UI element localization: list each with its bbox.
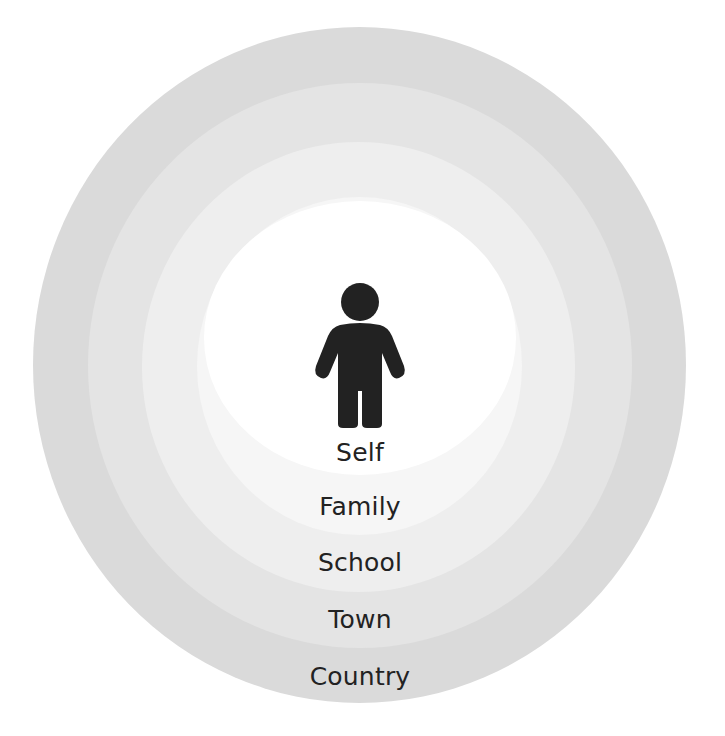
label-family: Family	[0, 492, 720, 522]
person-icon	[310, 276, 410, 431]
label-self: Self	[0, 438, 720, 468]
label-school: School	[0, 548, 720, 578]
label-country: Country	[0, 662, 720, 692]
label-town: Town	[0, 605, 720, 635]
